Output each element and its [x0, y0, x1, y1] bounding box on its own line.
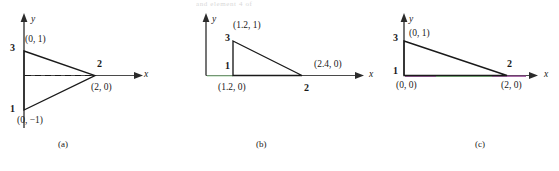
node-number-3: 3	[225, 33, 230, 43]
node-number-3: 3	[393, 33, 398, 43]
x-axis-label: x	[144, 70, 148, 80]
panel-caption-c: (c)	[475, 140, 485, 149]
panel-a: y x 3 1 2 (0, 1) (0, −1) (2, 0) (a)	[0, 0, 190, 171]
node-coord-3: (0, 1)	[25, 35, 46, 45]
node-number-1: 1	[225, 61, 230, 71]
node-coord-2: (2, 0)	[91, 83, 112, 93]
y-axis-label: y	[212, 15, 216, 25]
x-axis-arrowhead	[134, 72, 143, 79]
node-coord-3: (0, 1)	[409, 29, 430, 39]
triangle-element-c	[404, 41, 507, 76]
node-number-2: 2	[304, 83, 309, 93]
y-axis-arrowhead	[21, 13, 28, 22]
panel-caption-b: (b)	[256, 140, 267, 149]
y-axis-label: y	[31, 15, 35, 25]
node-number-3: 3	[10, 43, 15, 53]
panel-b-drawing	[186, 0, 376, 171]
x-axis-label: x	[369, 70, 373, 80]
y-axis-arrowhead	[401, 13, 408, 22]
node-coord-1: (1.2, 0)	[218, 83, 246, 93]
panel-caption-a: (a)	[58, 140, 68, 149]
node-coord-3: (1.2, 1)	[233, 21, 261, 31]
node-number-2: 2	[507, 59, 512, 69]
node-coord-1: (0, −1)	[17, 116, 43, 126]
x-axis-arrowhead	[529, 72, 538, 79]
node-coord-1: (0, 0)	[396, 81, 417, 91]
node-coord-2: (2.4, 0)	[314, 60, 342, 70]
triangle-element-a	[24, 51, 95, 110]
y-axis-label: y	[409, 15, 413, 25]
panel-c: y x 3 1 2 (0, 1) (0, 0) (2, 0) (c)	[374, 0, 559, 171]
node-number-1: 1	[393, 66, 398, 76]
x-axis-arrowhead	[355, 72, 364, 79]
node-number-1: 1	[10, 104, 15, 114]
figure-root: and element 4 of y x 3 1 2 (0, 1) (0, −1…	[0, 0, 559, 171]
x-axis-label: x	[544, 70, 548, 80]
node-coord-2: (2, 0)	[501, 81, 522, 91]
node-number-2: 2	[97, 59, 102, 69]
triangle-element-b	[233, 41, 302, 76]
y-axis-arrowhead	[203, 13, 210, 22]
panel-b: y x 3 1 2 (1.2, 1) (1.2, 0) (2.4, 0) (b)	[186, 0, 376, 171]
